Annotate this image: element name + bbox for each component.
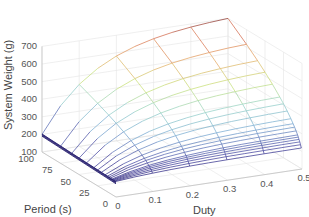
y-tick-label: 75 (42, 164, 53, 175)
z-tick-label: 500 (21, 76, 37, 87)
z-axis-label: System Weight (g) (2, 40, 14, 130)
x-tick-label: 0 (115, 200, 120, 211)
y-axis-label: Period (s) (24, 203, 72, 215)
x-tick-label: 0.1 (149, 194, 162, 205)
x-tick-label: 0.5 (297, 172, 309, 183)
y-tick-label: 0 (103, 198, 108, 209)
surface-mesh (42, 18, 301, 183)
x-axis-label: Duty (193, 204, 216, 216)
z-tick-label: 600 (21, 58, 37, 69)
x-tick-label: 0.4 (260, 178, 273, 189)
z-tick-label: 300 (21, 111, 37, 122)
x-tick-label: 0.2 (186, 189, 199, 200)
surface-chart: 100200300400500600700025507510000.10.20.… (0, 0, 309, 217)
z-tick-label: 400 (21, 93, 37, 104)
y-tick-label: 50 (60, 176, 71, 187)
y-tick-label: 25 (79, 187, 90, 198)
z-tick-label: 700 (21, 40, 37, 51)
z-tick-label: 200 (21, 128, 37, 139)
x-tick-label: 0.3 (223, 183, 236, 194)
y-tick-label: 100 (18, 153, 34, 164)
